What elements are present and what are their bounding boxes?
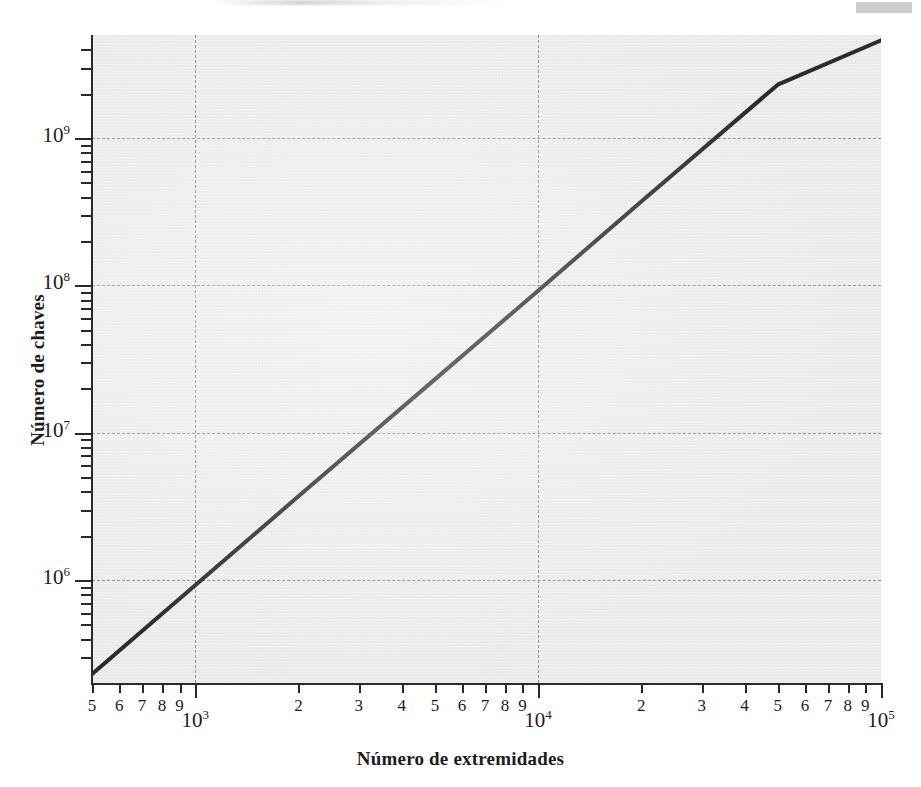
y-tick-minor [81, 455, 92, 457]
x-tick-label-minor: 3 [689, 697, 715, 714]
y-tick-minor [81, 161, 92, 163]
y-tick-minor [81, 330, 92, 332]
x-tick-label-minor: 4 [732, 697, 758, 714]
x-tick-minor [848, 683, 850, 693]
y-tick-minor [81, 292, 92, 294]
y-tick-minor [81, 447, 92, 449]
y-tick-minor [81, 182, 92, 184]
x-tick-minor [359, 683, 361, 693]
y-tick-minor [81, 300, 92, 302]
y-tick-label: 109 [0, 125, 70, 146]
x-tick-minor [522, 683, 524, 693]
y-tick-minor [81, 594, 92, 596]
y-tick-major [75, 580, 92, 582]
y-tick-major [75, 433, 92, 435]
y-tick-minor [81, 477, 92, 479]
plot-area [92, 35, 881, 683]
x-tick-major [881, 683, 883, 698]
x-tick-major [195, 683, 197, 698]
x-tick-major [538, 683, 540, 698]
y-tick-minor [81, 94, 92, 96]
series-polyline [92, 40, 881, 674]
y-tick-minor [81, 491, 92, 493]
x-tick-minor [485, 683, 487, 693]
x-tick-minor [702, 683, 704, 693]
x-tick-label-major: 104 [503, 710, 573, 731]
y-tick-major [75, 138, 92, 140]
scan-artifact-corner [856, 2, 912, 13]
y-tick-minor [81, 49, 92, 51]
x-tick-minor [142, 683, 144, 693]
y-tick-minor [81, 152, 92, 154]
x-tick-label-minor: 2 [285, 697, 311, 714]
chart-figure: 106107108109 567892345678923456789103104… [0, 0, 921, 787]
y-tick-minor [81, 624, 92, 626]
data-line [92, 35, 881, 683]
x-tick-minor [805, 683, 807, 693]
y-tick-minor [81, 308, 92, 310]
y-tick-minor [81, 145, 92, 147]
x-axis-title: Número de extremidades [0, 748, 921, 770]
y-tick-minor [81, 639, 92, 641]
y-tick-major [75, 285, 92, 287]
y-tick-minor [81, 510, 92, 512]
x-tick-minor [745, 683, 747, 693]
x-tick-minor [778, 683, 780, 693]
y-tick-minor [81, 465, 92, 467]
y-tick-minor [81, 344, 92, 346]
x-tick-label-minor: 2 [628, 697, 654, 714]
y-tick-minor [81, 439, 92, 441]
scan-artifact-top [210, 0, 510, 5]
y-tick-minor [81, 536, 92, 538]
x-tick-label-minor: 5 [765, 697, 791, 714]
y-tick-minor [81, 388, 92, 390]
x-tick-label-major: 103 [160, 710, 230, 731]
x-tick-minor [180, 683, 182, 693]
y-tick-minor [81, 318, 92, 320]
x-tick-label-minor: 5 [422, 697, 448, 714]
x-tick-minor [641, 683, 643, 693]
x-tick-minor [865, 683, 867, 693]
y-tick-minor [81, 215, 92, 217]
y-tick-minor [81, 613, 92, 615]
y-tick-minor [81, 241, 92, 243]
y-axis-title: Número de chaves [27, 240, 49, 500]
x-tick-minor [435, 683, 437, 693]
x-tick-label-minor: 3 [346, 697, 372, 714]
y-tick-minor [81, 362, 92, 364]
y-tick-minor [81, 657, 92, 659]
x-tick-minor [298, 683, 300, 693]
x-tick-minor [119, 683, 121, 693]
x-tick-minor [162, 683, 164, 693]
x-tick-minor [505, 683, 507, 693]
y-tick-minor [81, 587, 92, 589]
y-tick-minor [81, 68, 92, 70]
x-tick-label-minor: 5 [79, 697, 105, 714]
x-tick-minor [402, 683, 404, 693]
y-tick-minor [81, 171, 92, 173]
x-tick-minor [92, 683, 94, 693]
y-tick-label: 106 [0, 567, 70, 588]
x-tick-label-minor: 4 [389, 697, 415, 714]
x-tick-minor [828, 683, 830, 693]
x-tick-minor [462, 683, 464, 693]
x-tick-label-major: 105 [846, 710, 916, 731]
y-tick-minor [81, 197, 92, 199]
y-tick-minor [81, 603, 92, 605]
